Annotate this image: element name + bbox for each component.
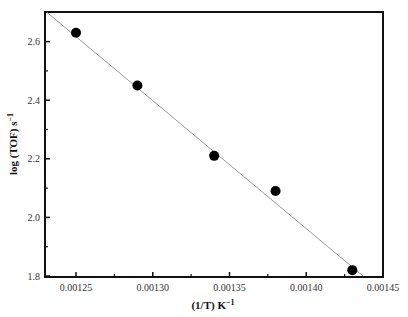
x-tick-label: 0.00125 [60,282,93,293]
y-tick-label: 2.4 [28,95,41,106]
data-point [347,265,357,275]
y-tick-label: 2.2 [28,153,41,164]
x-tick-label: 0.00140 [290,282,323,293]
data-point [271,186,281,196]
x-tick-label: 0.00135 [213,282,246,293]
x-axis-label: (1/T) K−1 [191,298,234,312]
y-tick-label: 2.6 [28,36,41,47]
fit-line [47,12,363,276]
y-tick-label: 2.0 [28,212,41,223]
data-point [132,81,142,91]
plot-frame [45,12,383,277]
data-point [209,151,219,161]
x-tick-label: 0.00130 [137,282,170,293]
x-tick-label: 0.00145 [367,282,400,293]
data-point [71,28,81,38]
chart: 0.001250.001300.001350.001400.001451.82.… [0,0,408,317]
plot-area: 0.001250.001300.001350.001400.001451.82.… [28,12,400,293]
y-tick-label: 1.8 [28,271,41,282]
y-axis-label: log (TOF) s−1 [6,113,20,175]
